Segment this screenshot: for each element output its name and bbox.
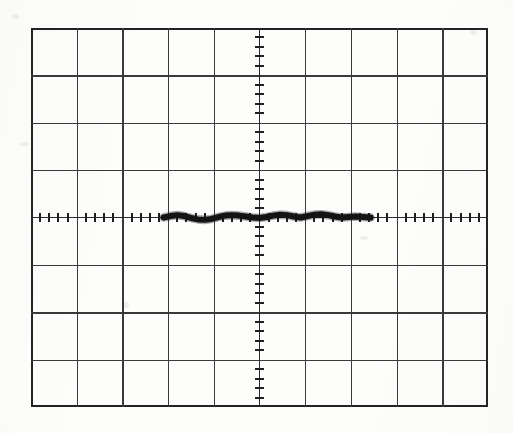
oscilloscope-graticule [31, 28, 488, 407]
trace-layer [31, 28, 488, 407]
scan-speck [12, 14, 19, 19]
oscilloscope-photograph [0, 0, 513, 433]
cathode-ray-trace [31, 28, 488, 407]
scan-speck [20, 142, 29, 146]
